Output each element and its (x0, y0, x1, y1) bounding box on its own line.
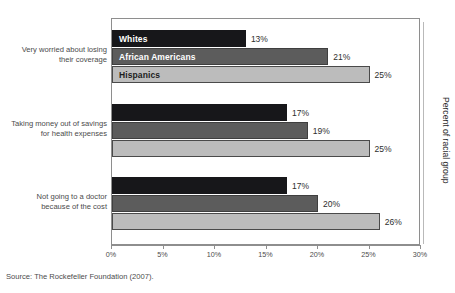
x-axis-tick-label: 30% (413, 250, 427, 259)
legend-label-hispanics: Hispanics (119, 70, 160, 80)
bar-whites[interactable] (112, 104, 287, 121)
y-axis-rule (423, 22, 424, 244)
bar-row: 17% (112, 104, 419, 121)
x-axis-tick (369, 245, 370, 249)
x-axis-tick (163, 245, 164, 249)
bar-whites[interactable]: Whites (112, 30, 246, 47)
x-axis-tick-label: 20% (310, 250, 324, 259)
bar-value-label: 20% (323, 199, 340, 209)
x-axis-tick-label: 15% (258, 250, 272, 259)
category-label-line: Taking money out of savings (0, 119, 107, 129)
category-label: Not going to a doctorbecause of the cost (0, 192, 107, 212)
source-note: Source: The Rockefeller Foundation (2007… (6, 272, 154, 281)
x-axis-tick (317, 245, 318, 249)
bar-hispanics[interactable]: Hispanics (112, 66, 370, 83)
x-axis-tick (266, 245, 267, 249)
bar-african-americans[interactable] (112, 195, 318, 212)
bar-row: 20% (112, 195, 419, 212)
x-axis-tick (420, 245, 421, 249)
category-label-line: their coverage (0, 55, 107, 65)
bar-row: 17% (112, 177, 419, 194)
bar-value-label: 25% (375, 144, 392, 154)
legend-label-whites: Whites (119, 34, 147, 44)
x-axis-tick-label: 10% (207, 250, 221, 259)
bar-hispanics[interactable] (112, 140, 370, 157)
chart-plot-frame: Whites13%African Americans21%Hispanics25… (111, 18, 420, 245)
y-axis-title: Percent of racial group (439, 50, 453, 230)
x-axis-tick-label: 25% (361, 250, 375, 259)
bar-whites[interactable] (112, 177, 287, 194)
bar-row: 26% (112, 213, 419, 230)
bar-value-label: 26% (385, 217, 402, 227)
bar-value-label: 21% (333, 52, 350, 62)
category-label-line: Not going to a doctor (0, 192, 107, 202)
bar-row: African Americans21% (112, 48, 419, 65)
legend-label-african-americans: African Americans (119, 52, 196, 62)
bar-row: 19% (112, 122, 419, 139)
x-axis-tick-label: 5% (157, 250, 167, 259)
category-label: Taking money out of savingsfor health ex… (0, 119, 107, 139)
bar-hispanics[interactable] (112, 213, 380, 230)
category-label: Very worried about losingtheir coverage (0, 45, 107, 65)
bar-value-label: 17% (292, 181, 309, 191)
bar-african-americans[interactable]: African Americans (112, 48, 328, 65)
bar-row: Whites13% (112, 30, 419, 47)
category-label-line: because of the cost (0, 202, 107, 212)
figure-title (8, 0, 428, 6)
bar-group: 17%20%26% (112, 177, 419, 231)
bar-african-americans[interactable] (112, 122, 308, 139)
category-label-line: for health expenses (0, 129, 107, 139)
bar-group: Whites13%African Americans21%Hispanics25… (112, 30, 419, 84)
x-axis-tick-label: 0% (106, 250, 116, 259)
x-axis-tick (111, 245, 112, 249)
bar-value-label: 17% (292, 108, 309, 118)
bar-value-label: 19% (313, 126, 330, 136)
bar-value-label: 13% (251, 34, 268, 44)
bar-group: 17%19%25% (112, 104, 419, 158)
category-label-line: Very worried about losing (0, 45, 107, 55)
bar-row: 25% (112, 140, 419, 157)
chart-plot-area: Whites13%African Americans21%Hispanics25… (112, 19, 419, 244)
bar-row: Hispanics25% (112, 66, 419, 83)
x-axis-tick (214, 245, 215, 249)
bar-value-label: 25% (375, 70, 392, 80)
